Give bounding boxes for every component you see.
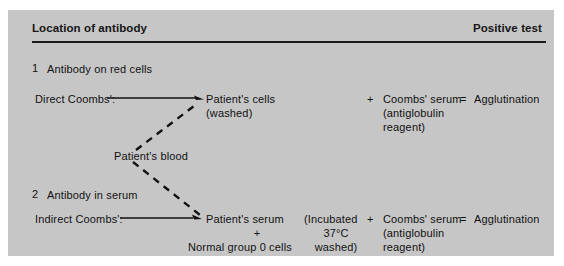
section-1-reagent: Coombs' serum: [383, 92, 462, 106]
arrowhead-direct-coombs: [194, 96, 204, 101]
section-2-number: 2: [32, 188, 38, 200]
section-2-sample-addition: Normal group 0 cells: [188, 240, 292, 254]
section-1-sample: Patient's cells: [206, 92, 275, 106]
section-2-condition-3: washed): [304, 240, 368, 254]
header-positive-test: Positive test: [473, 22, 542, 34]
section-2-test-name: Indirect Coombs':: [35, 212, 123, 226]
source-patients-blood: Patient's blood: [114, 149, 188, 163]
section-2-equals: =: [460, 212, 467, 226]
section-2-reagent-note-2: reagent): [383, 240, 425, 254]
section-1-sample-note: (washed): [206, 106, 252, 120]
section-2-sample: Patient's serum: [206, 212, 284, 226]
branch-blood-to-serum: [133, 162, 200, 215]
section-1-reagent-note-2: reagent): [383, 120, 425, 134]
section-2-title: Antibody in serum: [47, 188, 138, 202]
arrowhead-indirect-coombs: [192, 215, 202, 220]
section-1-result: Agglutination: [474, 92, 540, 106]
section-1-plus: +: [367, 92, 374, 106]
section-1-test-name: Direct Coombs':: [35, 92, 115, 106]
section-2-result: Agglutination: [474, 212, 540, 226]
section-2-condition-1: (Incubated: [304, 212, 357, 226]
section-2-reagent: Coombs' serum: [383, 212, 462, 226]
header-divider-rule: [32, 41, 546, 43]
section-1-equals: =: [460, 92, 467, 106]
section-1-number: 1: [32, 62, 38, 74]
section-1-reagent-note-1: (antiglobulin: [383, 106, 444, 120]
section-1-title: Antibody on red cells: [47, 62, 152, 76]
header-location-of-antibody: Location of antibody: [32, 22, 147, 34]
figure-panel: Location of antibody Positive test 1 Ant…: [8, 10, 554, 256]
section-2-plus: +: [367, 212, 374, 226]
branch-blood-to-cells: [136, 103, 198, 150]
section-2-condition-2: 37°C: [304, 226, 368, 240]
section-2-reagent-note-1: (antiglobulin: [383, 226, 444, 240]
